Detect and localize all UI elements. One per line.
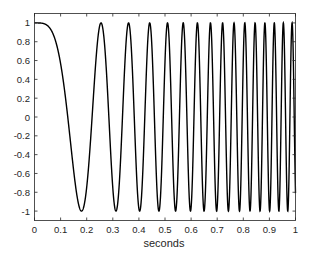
x-tick-label: 1 xyxy=(293,224,298,235)
x-tick-label: 0.7 xyxy=(211,224,224,235)
y-tick-label: 0 xyxy=(25,112,30,123)
y-tick-label: -0.4 xyxy=(14,149,30,160)
x-tick-label: 0.6 xyxy=(184,224,197,235)
x-tick-label: 0.5 xyxy=(158,224,171,235)
plot-area xyxy=(35,23,296,211)
y-tick-label: 1 xyxy=(25,17,30,28)
y-tick-label: -0.6 xyxy=(14,168,30,179)
y-tick-label: 0.4 xyxy=(17,74,30,85)
chirp-line xyxy=(35,23,296,211)
x-tick-label: 0.2 xyxy=(80,224,93,235)
x-tick-label: 0.9 xyxy=(263,224,276,235)
x-tick-label: 0.8 xyxy=(237,224,250,235)
x-tick-label: 0.3 xyxy=(106,224,119,235)
x-axis-label: seconds xyxy=(144,237,185,249)
y-tick-label: 0.2 xyxy=(17,93,30,104)
x-tick-label: 0.1 xyxy=(54,224,67,235)
y-tick-label: -1 xyxy=(22,206,30,217)
x-tick-label: 0.4 xyxy=(132,224,145,235)
x-tick-label: 0 xyxy=(32,224,37,235)
chart-figure: 00.10.20.30.40.50.60.70.80.91 10.80.60.4… xyxy=(0,0,311,259)
y-tick-label: -0.8 xyxy=(14,187,30,198)
y-tick-label: -0.2 xyxy=(14,130,30,141)
y-tick-label: 0.8 xyxy=(17,36,30,47)
y-tick-label: 0.6 xyxy=(17,55,30,66)
